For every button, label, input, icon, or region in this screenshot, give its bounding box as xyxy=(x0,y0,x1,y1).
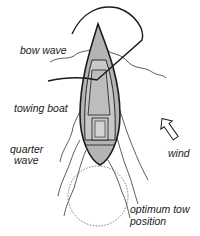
diagram-graphic xyxy=(0,0,200,236)
quarter-wave-right-2 xyxy=(114,130,138,204)
towing-diagram: bow wave towing boat quarter wave wind o… xyxy=(0,0,200,236)
bow-wave-label: bow wave xyxy=(20,45,67,56)
boat-cockpit-inner xyxy=(95,121,105,137)
quarter-wave-left-3 xyxy=(64,150,86,216)
boat-cabin xyxy=(88,70,110,115)
quarter-wave-right-1 xyxy=(116,100,148,180)
towing-boat-label: towing boat xyxy=(14,103,68,114)
wind-label: wind xyxy=(168,148,190,159)
wind-arrow-icon xyxy=(156,115,181,143)
optimum-tow-label-1: optimum tow xyxy=(130,204,190,215)
optimum-tow-circle xyxy=(68,166,128,226)
optimum-tow-label-2: position xyxy=(130,216,166,227)
quarter-wave-label-2: wave xyxy=(14,155,39,166)
